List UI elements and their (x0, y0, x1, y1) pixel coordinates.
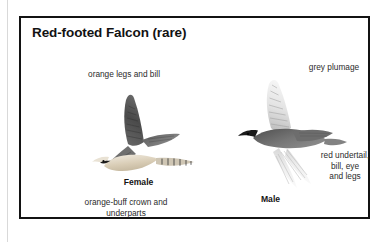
page-margin-rule (7, 0, 8, 242)
caption-grey-plumage: grey plumage (279, 62, 389, 73)
species-plate: Red-footed Falcon (rare) orange legs and… (19, 16, 370, 219)
caption-orange-buff-crown: orange-buff crown and underparts (51, 197, 201, 218)
label-female: Female (91, 177, 186, 187)
falcon-in-flight-female-icon (76, 90, 201, 182)
label-male: Male (223, 194, 318, 204)
caption-red-undertail-bill-eye-legs: red undertail, bill, eye and legs (299, 150, 390, 182)
caption-orange-legs-and-bill: orange legs and bill (49, 69, 199, 80)
page-title: Red-footed Falcon (rare) (32, 25, 186, 40)
